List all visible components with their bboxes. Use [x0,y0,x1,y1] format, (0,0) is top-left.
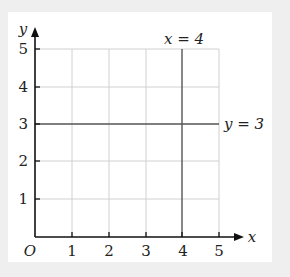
y-tick-label: 1 [18,190,28,208]
x-tick-label: 5 [214,242,224,260]
x-tick-label: 2 [104,242,114,260]
line-label-x-equals-4: x = 4 [164,30,204,48]
coordinate-plane: 1 2 3 4 5 1 2 3 4 5 O x y x = 4 y = 3 [0,0,290,277]
line-label-y-equals-3: y = 3 [223,115,264,133]
y-axis-arrow-icon [31,27,39,37]
x-tick-label: 3 [141,242,151,260]
y-tick-label: 3 [18,115,28,133]
grid [35,49,219,237]
axes [35,36,236,237]
origin-label: O [24,242,36,260]
x-tick-label: 1 [67,242,77,260]
y-tick-label: 4 [18,78,28,96]
x-axis-arrow-icon [234,233,244,241]
y-tick-label: 5 [18,40,28,58]
x-tick-label: 4 [178,242,188,260]
ticks [35,49,219,237]
y-axis-label: y [18,20,28,38]
x-axis-label: x [248,228,257,246]
y-tick-label: 2 [18,152,28,170]
